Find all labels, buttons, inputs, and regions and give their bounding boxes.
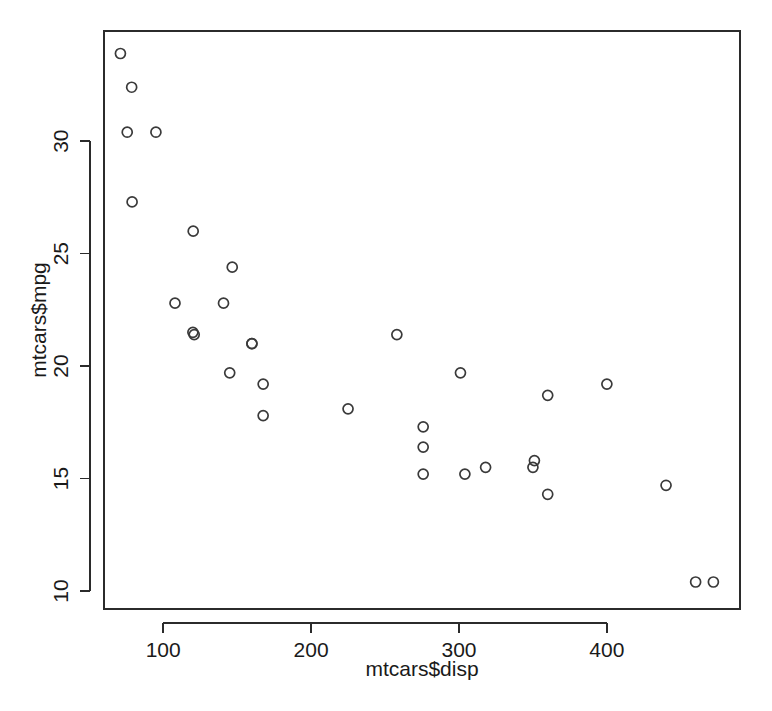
y-axis-tick-label: 20: [49, 354, 72, 377]
data-point: [258, 379, 268, 389]
x-axis: 100200300400: [146, 623, 625, 661]
data-point: [708, 577, 718, 587]
data-point: [188, 226, 198, 236]
plot-canvas: 100200300400 1015202530 mtcars$disp mtca…: [0, 0, 772, 711]
data-point: [343, 404, 353, 414]
data-point: [115, 48, 125, 58]
y-axis: 1015202530: [49, 130, 90, 603]
data-point: [602, 379, 612, 389]
data-point: [227, 262, 237, 272]
data-point: [543, 489, 553, 499]
data-point: [528, 462, 538, 472]
data-point: [418, 422, 428, 432]
y-axis-tick-label: 30: [49, 130, 72, 153]
data-point: [481, 462, 491, 472]
data-point: [247, 339, 257, 349]
data-point: [258, 411, 268, 421]
data-point: [225, 368, 235, 378]
data-point: [460, 469, 470, 479]
y-axis-title: mtcars$mpg: [27, 262, 50, 378]
data-point: [661, 480, 671, 490]
y-axis-tick-label: 25: [49, 242, 72, 265]
y-axis-tick-label: 10: [49, 579, 72, 602]
x-axis-tick-label: 400: [589, 638, 624, 661]
data-point: [127, 197, 137, 207]
x-axis-title: mtcars$disp: [365, 657, 478, 680]
data-point: [455, 368, 465, 378]
x-axis-tick-label: 200: [294, 638, 329, 661]
data-point: [392, 330, 402, 340]
data-point: [418, 442, 428, 452]
y-axis-tick-label: 15: [49, 467, 72, 490]
data-point: [127, 82, 137, 92]
data-points-layer: [115, 48, 718, 587]
data-point: [122, 127, 132, 137]
plot-border: [104, 31, 740, 609]
scatter-plot-figure: 100200300400 1015202530 mtcars$disp mtca…: [0, 0, 772, 711]
data-point: [219, 298, 229, 308]
data-point: [529, 456, 539, 466]
plot-frame: [104, 31, 740, 609]
data-point: [543, 390, 553, 400]
data-point: [170, 298, 180, 308]
x-axis-tick-label: 100: [146, 638, 181, 661]
data-point: [418, 469, 428, 479]
data-point: [691, 577, 701, 587]
data-point: [151, 127, 161, 137]
